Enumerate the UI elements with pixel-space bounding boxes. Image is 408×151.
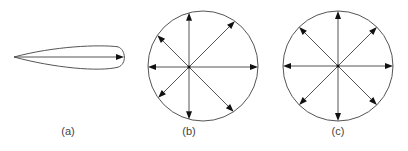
panel-c-arrow-45-shaft [338, 33, 371, 66]
panel-b-label: (b) [182, 125, 195, 137]
panel-b-arrow-90-arrowhead-icon [186, 13, 192, 21]
panel-c-arrow-225-shaft [305, 66, 338, 99]
panel-c-source-dot-icon [337, 65, 340, 68]
panel-b-arrow-135-shaft [163, 41, 189, 67]
panel-a-lobe-outline [14, 46, 124, 69]
panel-b-arrow-315-shaft [189, 67, 228, 106]
panel-b-source-dot-icon [188, 66, 191, 69]
panel-b-arrow-180-arrowhead-icon [148, 64, 156, 70]
panel-c-arrow-90-arrowhead-icon [335, 11, 341, 19]
panel-a-label: (a) [61, 125, 74, 137]
panel-c-arrow-270-arrowhead-icon [335, 113, 341, 121]
panel-b-arrow-270-arrowhead-icon [186, 111, 192, 119]
panel-b-arrow-225-shaft [164, 67, 189, 92]
panel-c-arrow-180-arrowhead-icon [283, 63, 291, 69]
panel-c-arrow-0-arrowhead-icon [385, 63, 393, 69]
panel-b-arrow-0-arrowhead-icon [250, 64, 258, 70]
panel-c-arrow-315-shaft [338, 66, 371, 99]
panel-b-circle-outline [148, 11, 258, 121]
panel-c-label: (c) [332, 125, 345, 137]
panel-c-arrow-135-shaft [305, 33, 338, 66]
panel-a-arrow-arrowhead-icon [116, 54, 124, 60]
panel-b-arrow-45-shaft [189, 27, 229, 67]
